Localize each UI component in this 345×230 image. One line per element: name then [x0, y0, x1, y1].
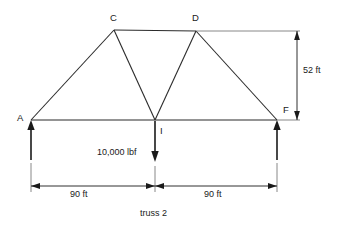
span-dimension-label-right: 90 ft [204, 190, 222, 199]
member-c-d [114, 30, 196, 31]
span-dimension-label-left: 90 ft [70, 190, 88, 199]
span-dimensions [31, 163, 277, 192]
member-a-c [31, 30, 114, 120]
reaction-arrow-f [273, 120, 280, 160]
node-label-d: D [192, 13, 199, 23]
reaction-arrow-a [27, 120, 34, 160]
figure-caption: truss 2 [140, 209, 167, 218]
node-label-f: F [283, 105, 289, 115]
node-label-c: C [110, 13, 117, 23]
member-d-i [155, 31, 196, 120]
span-dimension-left [31, 183, 155, 189]
truss-drawing-canvas [0, 0, 345, 230]
truss-diagram-figure: A C D F I 10,000 lbf 52 ft 90 ft 90 ft t… [0, 0, 345, 230]
height-dim-arrow-top [294, 31, 300, 40]
truss-members [31, 30, 277, 120]
member-c-i [114, 30, 155, 120]
height-dim-arrow-bottom [294, 111, 300, 120]
node-label-i: I [160, 126, 163, 136]
height-dimension-label: 52 ft [303, 66, 321, 75]
load-arrow-i [151, 121, 158, 162]
member-d-f [196, 31, 277, 120]
node-label-a: A [17, 113, 23, 123]
load-magnitude-label: 10,000 lbf [97, 148, 137, 157]
